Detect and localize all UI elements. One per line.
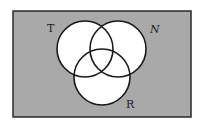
set-t-label: T [47,22,55,35]
venn-diagram: T N R [0,0,204,120]
set-r-label: R [126,98,135,111]
set-n-label: N [149,23,160,36]
